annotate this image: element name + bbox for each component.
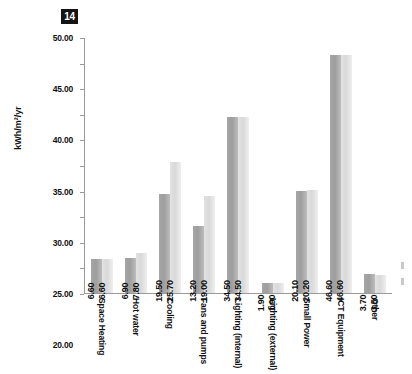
x-label-cell: Space Heating [85, 296, 119, 374]
bar: 46.60 [341, 55, 352, 293]
bar-group: 20.1020.20 [290, 38, 324, 293]
y-tick-label: 20.00 [39, 340, 73, 350]
x-label-cell: Fans and pumps [187, 296, 221, 374]
x-axis-labels: Space HeatingHot waterCoolingFans and pu… [85, 296, 392, 374]
y-tick-label: 40.00 [39, 135, 73, 145]
x-tick-label: Fans and pumps [199, 298, 209, 364]
x-tick-label: Hot water [131, 298, 141, 336]
bar: 20.20 [307, 190, 318, 293]
y-tick-mark: 50.00 [80, 38, 84, 39]
x-tick-label: Lighting (external) [268, 298, 278, 370]
bar-group: 6.907.80 [119, 38, 153, 293]
y-tick-mark: 15.00 [80, 217, 84, 218]
y-tick-mark: 30.00 [80, 140, 84, 141]
y-tick-mark: 10.00 [80, 243, 84, 244]
bar-group: 13.2019.00 [187, 38, 221, 293]
x-label-cell: Lighting (internal) [221, 296, 255, 374]
y-tick-mark: 0.00 [80, 294, 84, 295]
bar: 7.80 [136, 253, 147, 293]
bar: 3.50 [375, 275, 386, 293]
x-label-cell: Small Power [290, 296, 324, 374]
y-tick-mark: 25.00 [80, 166, 84, 167]
bar-groups: 6.606.606.907.8019.5025.7013.2019.0034.5… [85, 38, 392, 293]
bar-group: 1.901.90 [256, 38, 290, 293]
bar: 19.50 [159, 194, 170, 293]
x-tick-label: Cooling [165, 298, 175, 329]
bar: 1.90 [273, 283, 284, 293]
x-label-cell: Lighting (external) [256, 296, 290, 374]
y-tick-label: 30.00 [39, 238, 73, 248]
plot-area: 0.005.0010.0015.0020.0025.0030.0035.0040… [84, 38, 392, 294]
y-tick-label: 45.00 [39, 84, 73, 94]
bar: 19.00 [204, 196, 215, 293]
y-tick-mark: 40.00 [80, 89, 84, 90]
bar: 1.90 [262, 283, 273, 293]
y-tick-mark: 35.00 [80, 115, 84, 116]
y-tick-mark: 5.00 [80, 268, 84, 269]
y-tick-mark: 20.00 [80, 192, 84, 193]
x-tick-label: Other [370, 298, 380, 320]
figure-number-badge: 14 [61, 9, 78, 24]
bar: 6.60 [102, 259, 113, 293]
x-tick-label: Lighting (internal) [233, 298, 243, 368]
legend-swatch [401, 262, 404, 269]
y-tick-mark: 45.00 [80, 64, 84, 65]
bar: 3.70 [364, 274, 375, 293]
y-tick-label: 35.00 [39, 187, 73, 197]
bar-group: 46.6046.60 [324, 38, 358, 293]
x-tick-label: ICT Equipment [336, 298, 346, 357]
x-tick-label: Space Heating [97, 298, 107, 355]
bar: 34.50 [227, 117, 238, 293]
bar-group: 19.5025.70 [153, 38, 187, 293]
x-label-cell: Cooling [153, 296, 187, 374]
y-tick-label: 25.00 [39, 289, 73, 299]
x-tick-label: Small Power [302, 298, 312, 347]
y-axis-title: kWh/m²/yr [13, 88, 23, 168]
x-label-cell: Hot water [119, 296, 153, 374]
bar-chart: 14 kWh/m²/yr 0.005.0010.0015.0020.0025.0… [0, 0, 412, 374]
legend-swatch [401, 278, 404, 285]
bar: 34.50 [238, 117, 249, 293]
bar-group: 6.606.60 [85, 38, 119, 293]
x-label-cell: ICT Equipment [324, 296, 358, 374]
y-tick-label: 50.00 [39, 33, 73, 43]
bar-group: 3.703.50 [358, 38, 392, 293]
legend-stub [401, 262, 411, 294]
x-label-cell: Other [358, 296, 392, 374]
bar: 25.70 [170, 162, 181, 293]
bar: 46.60 [330, 55, 341, 293]
bar: 20.10 [296, 191, 307, 294]
bar-group: 34.5034.50 [221, 38, 255, 293]
